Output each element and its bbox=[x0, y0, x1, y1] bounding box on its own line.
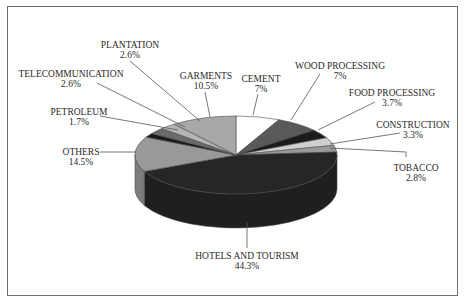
leader-line bbox=[100, 116, 178, 130]
label-cement: CEMENT 7% bbox=[241, 74, 280, 94]
label-plantation-pct: 2.6% bbox=[101, 50, 159, 60]
label-garments-pct: 10.5% bbox=[180, 81, 232, 91]
label-petroleum-pct: 1.7% bbox=[51, 117, 108, 127]
label-others-pct: 14.5% bbox=[63, 157, 100, 167]
leader-line bbox=[97, 83, 185, 127]
label-garments: GARMENTS 10.5% bbox=[180, 71, 232, 91]
label-others-name: OTHERS bbox=[63, 147, 100, 157]
label-wood-processing-name: WOOD PROCESSING bbox=[295, 61, 385, 71]
label-wood-processing: WOOD PROCESSING 7% bbox=[295, 61, 385, 81]
label-cement-name: CEMENT bbox=[241, 74, 280, 84]
label-construction-name: CONSTRUCTION bbox=[376, 120, 449, 130]
label-tobacco: TOBACCO 2.8% bbox=[393, 163, 438, 183]
label-food-processing-name: FOOD PROCESSING bbox=[349, 88, 435, 98]
label-telecommunication-pct: 2.6% bbox=[18, 79, 123, 89]
leader-line bbox=[130, 61, 200, 121]
label-tobacco-name: TOBACCO bbox=[393, 163, 438, 173]
label-petroleum-name: PETROLEUM bbox=[51, 107, 108, 117]
label-wood-processing-pct: 7% bbox=[295, 71, 385, 81]
label-plantation-name: PLANTATION bbox=[101, 40, 159, 50]
label-telecommunication-name: TELECOMMUNICATION bbox=[18, 69, 123, 79]
label-food-processing-pct: 3.7% bbox=[349, 98, 435, 108]
label-cement-pct: 7% bbox=[241, 84, 280, 94]
label-petroleum: PETROLEUM 1.7% bbox=[51, 107, 108, 127]
label-hotels-and-tourism-pct: 44.3% bbox=[195, 261, 299, 271]
label-plantation: PLANTATION 2.6% bbox=[101, 40, 159, 60]
label-others: OTHERS 14.5% bbox=[63, 147, 100, 167]
leader-line bbox=[253, 94, 258, 115]
label-hotels-and-tourism-name: HOTELS AND TOURISM bbox=[195, 251, 299, 261]
label-food-processing: FOOD PROCESSING 3.7% bbox=[349, 88, 435, 108]
label-garments-name: GARMENTS bbox=[180, 71, 232, 81]
label-construction: CONSTRUCTION 3.3% bbox=[376, 120, 449, 140]
leader-line bbox=[330, 148, 406, 157]
leader-line bbox=[205, 92, 210, 117]
label-construction-pct: 3.3% bbox=[376, 130, 449, 140]
label-hotels-and-tourism: HOTELS AND TOURISM 44.3% bbox=[195, 251, 299, 271]
label-telecommunication: TELECOMMUNICATION 2.6% bbox=[18, 69, 123, 89]
label-tobacco-pct: 2.8% bbox=[393, 173, 438, 183]
